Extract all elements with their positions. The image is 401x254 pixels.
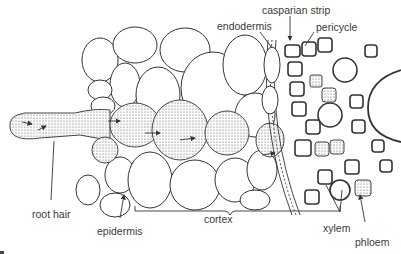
root-cross-section-diagram: casparian strip endodermis pericycle roo… xyxy=(0,0,401,254)
label-casparian-strip: casparian strip xyxy=(262,5,330,16)
label-endodermis: endodermis xyxy=(217,21,272,32)
label-cortex: cortex xyxy=(204,214,233,225)
label-phloem: phloem xyxy=(355,237,389,248)
label-xylem: xylem xyxy=(323,223,350,234)
stele-cells xyxy=(285,38,401,204)
label-root-hair: root hair xyxy=(32,209,71,220)
label-epidermis: epidermis xyxy=(97,226,143,237)
cortex-bracket xyxy=(135,206,340,215)
label-pericycle: pericycle xyxy=(316,22,357,33)
